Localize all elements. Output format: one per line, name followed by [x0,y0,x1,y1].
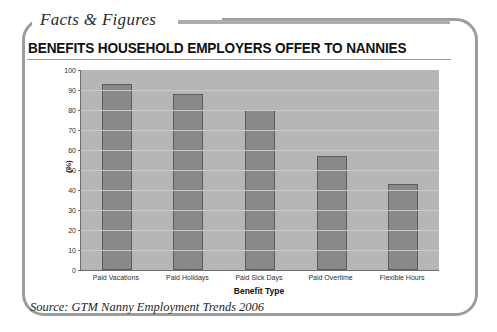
panel-kicker: Facts & Figures [38,10,162,30]
bar[interactable] [102,84,132,270]
bar-chart: (%) 1009080706050403020100 Paid Vacation… [30,66,450,296]
gridline [81,90,439,91]
y-axis-tick-label: 90 [68,87,76,94]
y-axis-tickmark [78,230,81,231]
bar[interactable] [317,156,347,270]
y-axis-tickmark [78,250,81,251]
source-note: Source: GTM Nanny Employment Trends 2006 [30,300,264,315]
x-axis-title: Benefit Type [80,286,438,296]
plot-area [80,70,439,271]
gridline [81,150,439,151]
y-axis-tickmark [78,210,81,211]
y-axis-tick-label: 30 [68,207,76,214]
gridline [81,170,439,171]
x-axis-tick-labels: Paid VacationsPaid HolidaysPaid Sick Day… [80,274,438,281]
y-axis-tickmark [78,270,81,271]
y-axis-tick-labels: 1009080706050403020100 [54,70,76,270]
x-axis-tick-label: Paid Holidays [152,274,224,281]
gridline [81,110,439,111]
y-axis-tickmark [78,130,81,131]
gridline [81,70,439,71]
gridline [81,230,439,231]
x-axis-tick-label: Paid Overtime [295,274,367,281]
facts-and-figures-panel: Facts & Figures BENEFITS HOUSEHOLD EMPLO… [0,0,497,332]
y-axis-tickmark [78,70,81,71]
gridline [81,190,439,191]
y-axis-tick-label: 0 [72,267,76,274]
bar[interactable] [388,184,418,270]
page-title: BENEFITS HOUSEHOLD EMPLOYERS OFFER TO NA… [28,40,435,56]
gridline [81,210,439,211]
y-axis-tickmark [78,110,81,111]
headline-rule [27,59,451,60]
y-axis-tick-label: 10 [68,247,76,254]
y-axis-tick-label: 80 [68,107,76,114]
x-axis-tick-label: Flexible Hours [366,274,438,281]
bar[interactable] [173,94,203,270]
y-axis-tickmark [78,90,81,91]
gridline [81,130,439,131]
y-axis-tick-label: 50 [68,167,76,174]
y-axis-tickmark [78,150,81,151]
x-axis-tick-label: Paid Sick Days [223,274,295,281]
y-axis-tick-label: 20 [68,227,76,234]
y-axis-tick-label: 40 [68,187,76,194]
kicker-rule [178,20,450,24]
y-axis-tickmark [78,170,81,171]
y-axis-tick-label: 100 [64,67,76,74]
y-axis-tick-label: 60 [68,147,76,154]
gridline [81,250,439,251]
x-axis-tick-label: Paid Vacations [80,274,152,281]
y-axis-tick-label: 70 [68,127,76,134]
y-axis-tickmark [78,190,81,191]
